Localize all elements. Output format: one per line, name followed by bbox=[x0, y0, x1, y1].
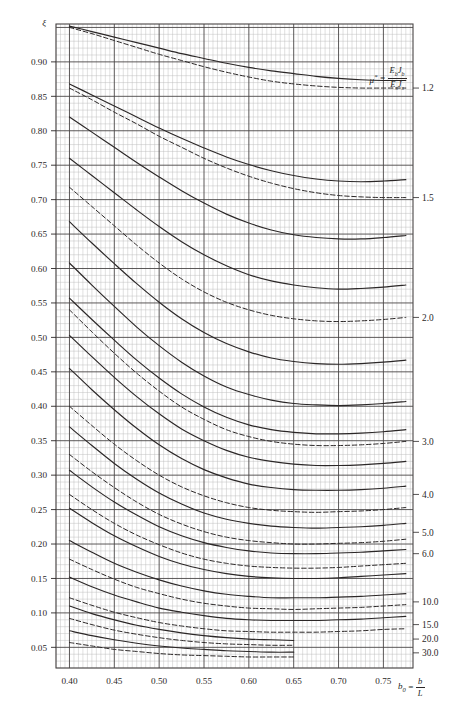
x-axis-label-equals: = bbox=[408, 682, 414, 692]
x-axis-label-numerator: b bbox=[416, 677, 424, 687]
curve-2.5 bbox=[69, 222, 405, 365]
x-tick-label: 0.55 bbox=[196, 676, 212, 686]
y-tick-label: 0.50 bbox=[31, 333, 47, 343]
curve-2.0-dashed bbox=[69, 187, 405, 321]
curve-value-label: 15.0 bbox=[422, 620, 439, 630]
x-tick-label: 0.65 bbox=[286, 676, 302, 686]
curve-1.75 bbox=[69, 117, 405, 239]
y-tick-label: 0.20 bbox=[31, 539, 47, 549]
y-tick-label: 0.75 bbox=[31, 160, 47, 170]
legend-denominator: EsJs bbox=[388, 79, 406, 91]
curve-3.5 bbox=[69, 335, 405, 465]
y-tick-label: 0.85 bbox=[31, 92, 47, 102]
curve-value-label: 5.0 bbox=[422, 528, 434, 538]
x-axis-label-lead: b0 bbox=[398, 681, 406, 693]
x-axis-label-fraction: b L bbox=[416, 677, 425, 697]
y-tick-label: 0.30 bbox=[31, 470, 47, 480]
chart-canvas: 0.050.100.150.200.250.300.350.400.450.50… bbox=[0, 0, 456, 717]
y-tick-label: 0.65 bbox=[31, 229, 47, 239]
legend-numerator: EbJb bbox=[388, 66, 407, 78]
y-tick-label: 0.40 bbox=[31, 401, 47, 411]
curve-value-label: 3.0 bbox=[422, 437, 434, 447]
curve-8.0 bbox=[69, 508, 405, 578]
legend-fraction: EbJb EsJs bbox=[388, 66, 407, 90]
curve-value-label: 20.0 bbox=[422, 634, 439, 644]
curve-value-label: 30.0 bbox=[422, 648, 439, 658]
curve-value-label: 10.0 bbox=[422, 597, 439, 607]
curve-group bbox=[69, 26, 405, 657]
y-tick-label: 0.10 bbox=[31, 608, 47, 618]
x-tick-label: 0.75 bbox=[375, 676, 391, 686]
curve-value-label: 6.0 bbox=[422, 549, 434, 559]
y-tick-label: 0.35 bbox=[31, 436, 47, 446]
x-tick-label: 0.60 bbox=[241, 676, 257, 686]
curve-4.0-dashed bbox=[69, 406, 405, 512]
grid-minor bbox=[56, 24, 413, 668]
x-tick-label: 0.50 bbox=[151, 676, 167, 686]
curve-value-labels: 1.21.52.03.04.05.06.010.015.020.030.0 bbox=[413, 83, 439, 658]
curve-4.0 bbox=[69, 368, 405, 490]
curve-2.75 bbox=[69, 263, 405, 406]
x-tick-label: 0.40 bbox=[61, 676, 77, 686]
legend-mu-symbol: μ* bbox=[369, 73, 377, 85]
y-axis-symbol-glyph: ξ bbox=[42, 18, 46, 28]
y-axis-tick-labels: 0.050.100.150.200.250.300.350.400.450.50… bbox=[31, 57, 56, 652]
legend-equals: = bbox=[379, 73, 385, 83]
curve-value-label: 1.5 bbox=[422, 193, 434, 203]
curve-value-label: 1.2 bbox=[422, 83, 434, 93]
curve-6.0 bbox=[69, 470, 405, 553]
x-tick-label: 0.70 bbox=[331, 676, 347, 686]
curve-3.0 bbox=[69, 298, 405, 434]
curve-1.5 bbox=[69, 84, 405, 182]
y-tick-label: 0.70 bbox=[31, 195, 47, 205]
y-tick-label: 0.80 bbox=[31, 126, 47, 136]
curve-value-label: 2.0 bbox=[422, 313, 434, 323]
y-tick-label: 0.45 bbox=[31, 367, 47, 377]
curve-3.0-dashed bbox=[69, 310, 405, 446]
y-tick-label: 0.05 bbox=[31, 643, 47, 653]
y-tick-label: 0.60 bbox=[31, 264, 47, 274]
curve-15.0-dashed bbox=[69, 598, 405, 632]
y-tick-label: 0.15 bbox=[31, 574, 47, 584]
curve-value-label: 4.0 bbox=[422, 490, 434, 500]
y-tick-label: 0.55 bbox=[31, 298, 47, 308]
y-tick-label: 0.90 bbox=[31, 57, 47, 67]
nomogram-figure: 0.050.100.150.200.250.300.350.400.450.50… bbox=[0, 0, 456, 717]
x-axis-label-denominator: L bbox=[416, 688, 425, 698]
x-tick-label: 0.45 bbox=[106, 676, 122, 686]
x-axis-label: b0 = b L bbox=[398, 677, 425, 697]
curve-2.0 bbox=[69, 158, 405, 289]
y-axis-symbol: ξ bbox=[42, 18, 46, 28]
curve-5.0 bbox=[69, 427, 405, 528]
legend-formula-box: μ* = EbJb EsJs bbox=[361, 64, 415, 92]
y-tick-label: 0.25 bbox=[31, 505, 47, 515]
x-axis-tick-labels: 0.400.450.500.550.600.650.700.75 bbox=[61, 676, 391, 686]
